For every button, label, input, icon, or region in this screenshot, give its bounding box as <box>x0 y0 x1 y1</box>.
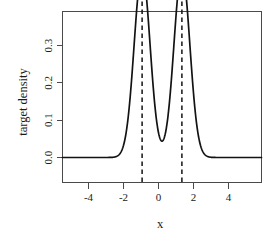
y-tick-marks <box>57 46 63 158</box>
target-density-curve <box>63 0 262 157</box>
chart-canvas: -4 -2 0 2 4 x 0.0 0.1 0.2 0.3 target den… <box>0 0 274 243</box>
y-tick-label-0.1: 0.1 <box>42 113 54 127</box>
x-tick-label-0: 0 <box>156 191 162 203</box>
data-layer <box>63 0 262 182</box>
x-tick-labels: -4 -2 0 2 4 <box>84 191 232 203</box>
x-axis-title: x <box>157 217 164 231</box>
x-tick-label-4: 4 <box>226 191 232 203</box>
x-tick-label--4: -4 <box>84 191 94 203</box>
y-tick-label-0.0: 0.0 <box>42 150 54 164</box>
x-axis: -4 -2 0 2 4 x <box>84 183 232 232</box>
y-axis-title: target density <box>16 68 30 136</box>
y-tick-label-0.3: 0.3 <box>42 38 54 52</box>
density-plot-figure: -4 -2 0 2 4 x 0.0 0.1 0.2 0.3 target den… <box>0 0 274 243</box>
x-tick-label-2: 2 <box>191 191 197 203</box>
y-tick-label-0.2: 0.2 <box>42 76 54 90</box>
y-tick-labels: 0.0 0.1 0.2 0.3 <box>42 38 54 164</box>
y-axis: 0.0 0.1 0.2 0.3 target density <box>16 38 63 164</box>
x-tick-marks <box>89 183 229 189</box>
x-tick-label--2: -2 <box>119 191 128 203</box>
